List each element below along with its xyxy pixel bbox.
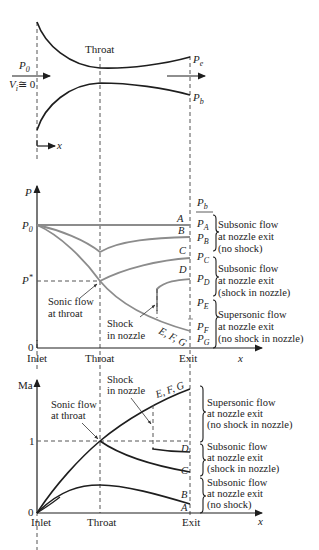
pressure-label-d: D [178,264,187,275]
svg-text:PB: PB [196,231,209,246]
mach-region-1: Supersonic flow at nozzle exit (no shock… [207,397,293,431]
svg-text:at nozzle exit: at nozzle exit [218,275,274,286]
svg-text:Subsonic flow: Subsonic flow [218,219,279,230]
svg-text:Supersonic flow: Supersonic flow [218,309,287,320]
mach-brace-1 [200,386,206,442]
mach-region-2: Subsonic flow at nozzle exit (shock in n… [207,441,280,475]
pressure-region-2: Subsonic flow at nozzle exit (shock in n… [218,263,291,299]
pressure-label-a: A [176,213,184,224]
svg-text:Shock: Shock [107,318,134,329]
pressure-region-3: Supersonic flow at nozzle exit (no shock… [218,309,304,345]
svg-text:(shock in nozzle): (shock in nozzle) [207,463,280,475]
pressure-chart: P x P0 P* 0 Inlet Throat Exit A B C D E,… [21,160,304,364]
pressure-y-label: P [24,186,32,198]
pressure-x-tick-throat: Throat [85,352,114,364]
mach-y-label: Ma [18,379,33,391]
svg-text:(shock in nozzle): (shock in nozzle) [218,287,291,299]
svg-text:in nozzle: in nozzle [107,330,146,341]
svg-text:PA: PA [196,217,209,232]
svg-text:at throat: at throat [48,308,83,319]
mach-label-b: B [181,489,188,500]
pressure-x-label: x [237,352,243,364]
pressure-sonic-annotation: Sonic flow at throat [48,284,97,319]
pressure-region-1: Subsonic flow at nozzle exit (no shock) [218,219,279,255]
svg-text:at nozzle exit: at nozzle exit [207,452,263,463]
mach-label-d: D [180,443,189,454]
svg-text:PE: PE [196,296,209,311]
svg-text:at nozzle exit: at nozzle exit [207,408,263,419]
pressure-curve-d [157,279,190,311]
svg-text:at throat: at throat [51,410,86,421]
mach-x-tick-exit: Exit [182,516,200,528]
svg-text:Sonic flow: Sonic flow [51,399,97,410]
pressure-shock-annotation: Shock in nozzle [107,305,155,341]
mach-one-tick: 1 [29,435,35,447]
svg-text:in nozzle: in nozzle [107,385,146,396]
nozzle-lower-wall [37,83,190,130]
svg-text:Sonic flow: Sonic flow [48,296,94,307]
mach-brace-2 [200,444,206,476]
svg-text:at nozzle exit: at nozzle exit [218,231,274,242]
svg-text:PC: PC [196,250,210,265]
pressure-label-c: C [179,245,187,256]
back-pressure-header: Pb [196,196,208,211]
svg-text:(no shock in nozzle): (no shock in nozzle) [218,333,304,345]
svg-text:(no shock in nozzle): (no shock in nozzle) [207,419,293,431]
exit-pressure-labels: PA PB PC PD PE PF PG [196,217,210,347]
back-pressure-label: Pb [192,91,204,106]
mach-shock-annotation: Shock in nozzle [107,374,151,424]
svg-text:Subsonic flow: Subsonic flow [207,477,268,488]
mach-x-tick-throat: Throat [87,516,116,528]
mach-region-3: Subsonic flow at nozzle exit (no shock) [207,477,268,511]
mach-sonic-annotation: Sonic flow at throat [51,399,98,439]
mach-label-a: A [180,502,188,513]
pressure-x-tick-exit: Exit [179,352,197,364]
pressure-label-efg: E, F, G [156,325,189,349]
mach-brace-3 [200,478,206,513]
svg-text:Subsonic flow: Subsonic flow [207,441,268,452]
mach-chart: Ma x 1 0 Inlet Throat Exit E, F, G D C B… [18,372,293,528]
svg-text:(no shock): (no shock) [218,243,263,255]
mach-x-tick-inlet: Inlet [31,516,51,528]
svg-text:Shock: Shock [107,374,134,385]
inlet-pressure-label: P0 [18,59,30,74]
exit-pressure-label: Pe [192,53,204,68]
svg-text:at nozzle exit: at nozzle exit [207,488,263,499]
mach-curve-b [37,485,190,513]
mach-x-label: x [257,515,263,527]
pressure-curve-c [37,225,190,281]
pressure-label-b: B [178,225,185,236]
pressure-x-tick-inlet: Inlet [27,352,47,364]
mach-label-c: C [181,465,189,476]
svg-text:PD: PD [196,272,210,287]
svg-text:Subsonic flow: Subsonic flow [218,263,279,274]
nozzle-x-label: x [56,139,62,151]
nozzle-flow-diagram: Throat P0 Vi≅ 0 Pe Pb x P x P0 P* 0 Inle… [0,0,319,550]
throat-label: Throat [85,43,114,55]
mach-curve-c [100,441,190,472]
svg-text:Supersonic flow: Supersonic flow [207,397,276,408]
inlet-velocity-label: Vi≅ 0 [9,78,36,93]
svg-text:at nozzle exit: at nozzle exit [218,321,274,332]
svg-text:(no shock): (no shock) [207,499,252,511]
